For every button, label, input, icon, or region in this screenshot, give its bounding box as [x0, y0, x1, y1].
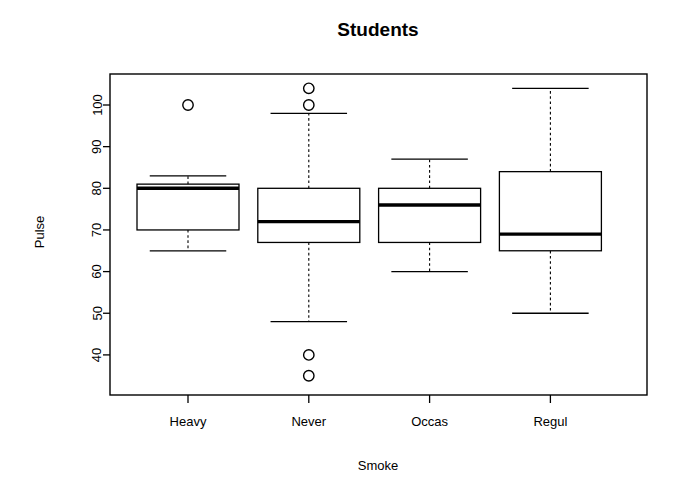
- box-heavy: [137, 100, 239, 251]
- x-axis-label: Smoke: [358, 458, 398, 473]
- y-tick-label: 50: [90, 306, 105, 320]
- x-tick-label-heavy: Heavy: [170, 414, 207, 429]
- box-iqr: [379, 188, 481, 242]
- outlier-point: [304, 100, 314, 110]
- y-tick-label: 100: [90, 94, 105, 116]
- y-tick-label: 70: [90, 223, 105, 237]
- outlier-point: [183, 100, 193, 110]
- y-tick-label: 80: [90, 181, 105, 195]
- box-series: [137, 83, 601, 381]
- chart-title: Students: [337, 19, 418, 40]
- x-tick-label-never: Never: [291, 414, 326, 429]
- y-tick-label: 40: [90, 348, 105, 362]
- y-tick-label: 90: [90, 139, 105, 153]
- outlier-point: [304, 371, 314, 381]
- outlier-point: [304, 83, 314, 93]
- box-occas: [379, 159, 481, 271]
- x-tick-label-regul: Regul: [533, 414, 567, 429]
- box-iqr: [258, 188, 360, 242]
- box-never: [258, 83, 360, 381]
- outlier-point: [304, 350, 314, 360]
- y-axis: 405060708090100: [90, 94, 111, 362]
- box-regul: [499, 88, 601, 313]
- y-axis-label: Pulse: [32, 216, 47, 249]
- boxplot-canvas: Students Pulse Smoke 405060708090100 Hea…: [0, 0, 680, 494]
- boxplot-figure: Students Pulse Smoke 405060708090100 Hea…: [0, 0, 680, 494]
- y-tick-label: 60: [90, 264, 105, 278]
- box-iqr: [499, 172, 601, 251]
- box-iqr: [137, 184, 239, 230]
- x-axis: HeavyNeverOccasRegul: [170, 395, 568, 429]
- x-tick-label-occas: Occas: [411, 414, 448, 429]
